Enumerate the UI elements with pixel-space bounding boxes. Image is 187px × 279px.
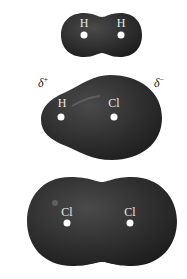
nucleus-dot <box>64 220 71 227</box>
atom-label-cl: Cl <box>108 97 119 109</box>
atom-label-h: H <box>80 17 89 29</box>
atom-label-cl: Cl <box>61 206 72 218</box>
nucleus-dot <box>81 32 88 39</box>
cl2-molecule <box>27 177 177 266</box>
nucleus-dot <box>111 114 118 121</box>
hcl-molecule <box>41 75 162 160</box>
partial-charge-negative: δ− <box>154 74 164 89</box>
atom-label-h: H <box>58 97 67 109</box>
atom-label-h: H <box>117 17 126 29</box>
nucleus-dot <box>127 220 134 227</box>
nucleus-dot <box>58 114 65 121</box>
atom-label-cl: Cl <box>124 206 135 218</box>
h2-molecule <box>61 13 142 57</box>
molecule-figure <box>0 0 187 279</box>
nucleus-dot <box>118 32 125 39</box>
partial-charge-positive: δ+ <box>38 74 48 89</box>
